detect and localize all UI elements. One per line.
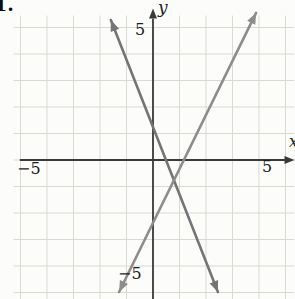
y-axis-tick-positive-5: 5 [135,22,145,38]
coordinate-plane [0,0,295,299]
x-axis-tick-positive-5: 5 [262,159,272,175]
x-axis-label: x [289,134,295,150]
grid-lines [14,16,294,299]
axes [21,9,295,299]
y-axis-tick-negative-5: −5 [118,266,142,282]
x-axis-tick-negative-5: −5 [17,161,41,177]
graph-figure: 1. y x −5 5 5 −5 [0,0,295,299]
problem-number: 1. [0,0,14,14]
y-axis-label: y [158,0,168,16]
plotted-lines [111,13,256,292]
